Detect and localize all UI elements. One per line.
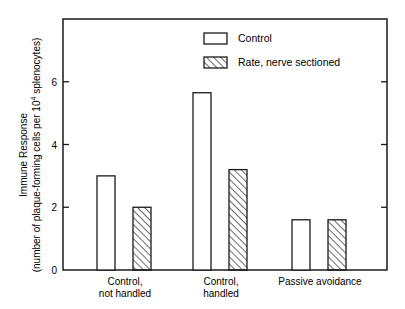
legend-label: Rate, nerve sectioned <box>238 56 340 68</box>
legend-swatch-open <box>204 33 227 44</box>
bar-nerve-sectioned <box>328 220 346 270</box>
bar-control <box>292 220 310 270</box>
bar-nerve-sectioned <box>229 170 247 270</box>
bar-control <box>97 176 115 270</box>
y-axis-subtitle: (number of plaque-forming cells per 104 … <box>30 38 42 273</box>
x-category-label: Control, <box>203 276 238 287</box>
bar-chart: Immune Response (number of plaque-formin… <box>0 0 405 309</box>
bars <box>97 93 346 270</box>
y-axis-title: Immune Response <box>18 113 29 197</box>
y-tick-label: 0 <box>51 265 57 276</box>
bar-control <box>193 93 211 270</box>
legend-label: Control <box>238 32 272 44</box>
x-axis-category-labels: Control,not handledControl,handledPassiv… <box>99 276 362 299</box>
legend: Control Rate, nerve sectioned <box>204 32 340 68</box>
legend-item-nerve-sectioned: Rate, nerve sectioned <box>204 56 340 68</box>
bar-nerve-sectioned <box>133 207 151 270</box>
legend-item-control: Control <box>204 32 272 44</box>
y-tick-label: 2 <box>51 202 57 213</box>
legend-swatch-hatched <box>204 57 227 68</box>
x-category-label: handled <box>203 288 239 299</box>
x-category-label: Passive avoidance <box>278 276 362 287</box>
x-category-label: Control, <box>107 276 142 287</box>
x-category-label: not handled <box>99 288 151 299</box>
y-tick-label: 4 <box>51 140 57 151</box>
y-tick-label: 6 <box>51 77 57 88</box>
